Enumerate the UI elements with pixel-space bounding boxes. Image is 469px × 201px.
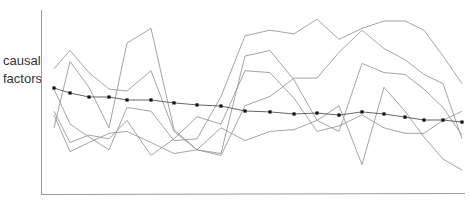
mean-marker bbox=[403, 115, 406, 118]
mean-marker bbox=[315, 111, 318, 114]
series-polyline bbox=[54, 71, 462, 156]
mean-marker bbox=[422, 118, 425, 121]
mean-marker bbox=[107, 95, 110, 98]
mean-marker bbox=[52, 86, 55, 89]
mean-marker bbox=[87, 95, 90, 98]
mean-marker bbox=[195, 103, 198, 106]
mean-marker bbox=[441, 118, 444, 121]
series-lines bbox=[54, 19, 462, 170]
mean-marker bbox=[172, 101, 175, 104]
mean-marker bbox=[382, 112, 385, 115]
series-polyline bbox=[54, 19, 462, 150]
mean-marker bbox=[219, 104, 222, 107]
mean-marker bbox=[337, 113, 340, 116]
chart-container: causal factors bbox=[0, 0, 469, 201]
mean-polyline bbox=[54, 88, 462, 122]
mean-marker bbox=[68, 91, 71, 94]
mean-marker bbox=[268, 110, 271, 113]
series-polyline bbox=[54, 30, 462, 155]
mean-marker bbox=[149, 98, 152, 101]
mean-marker bbox=[125, 98, 128, 101]
mean-marker bbox=[292, 112, 295, 115]
mean-marker bbox=[360, 110, 363, 113]
mean-marker bbox=[460, 120, 463, 123]
mean-marker bbox=[243, 109, 246, 112]
plot-area bbox=[0, 0, 469, 201]
x-axis bbox=[42, 194, 466, 195]
